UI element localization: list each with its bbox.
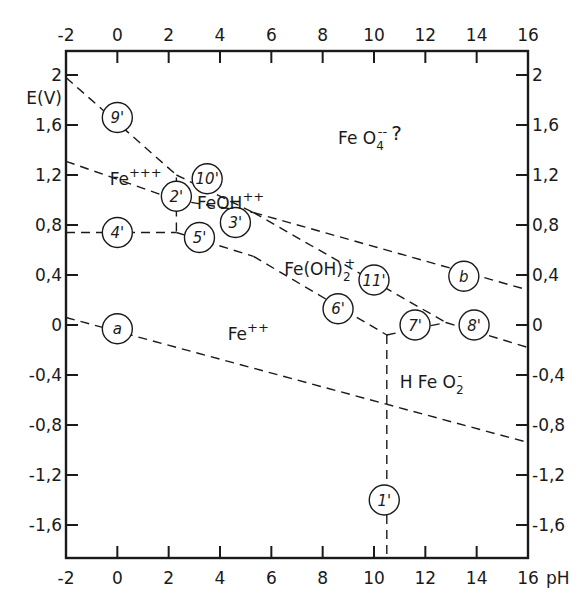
y-tick-label-right: 0,8 (532, 215, 559, 235)
x-tick-label-bottom: 0 (112, 568, 123, 588)
x-tick-label-top: 10 (363, 25, 385, 45)
line-marker: a (102, 314, 132, 344)
x-tick-label-top: -2 (58, 25, 75, 45)
line-marker: 11' (359, 265, 389, 295)
y-tick-label-left: -1,6 (29, 515, 62, 535)
line-marker: 6' (323, 294, 353, 324)
marker-label: 9' (110, 109, 124, 127)
marker-label: 3' (229, 214, 243, 232)
marker-label: 1' (377, 492, 391, 510)
x-axis-label: pH (546, 568, 570, 588)
x-tick-label-top: 2 (163, 25, 174, 45)
marker-label: 2' (170, 188, 184, 206)
x-tick-label-top: 12 (415, 25, 437, 45)
x-tick-label-bottom: -2 (58, 568, 75, 588)
y-tick-label-right: 1,2 (532, 165, 559, 185)
x-tick-label-top: 16 (517, 25, 539, 45)
y-tick-label-left: 0,4 (35, 265, 62, 285)
line-marker: 7' (400, 310, 430, 340)
x-tick-label-bottom: 14 (466, 568, 488, 588)
marker-label: 10' (196, 170, 219, 188)
x-tick-label-top: 14 (466, 25, 488, 45)
x-tick-label-bottom: 8 (317, 568, 328, 588)
x-tick-label-top: 4 (215, 25, 226, 45)
pourbaix-diagram: -2-200224466881010121214141616pH221,61,6… (0, 0, 585, 599)
y-tick-label-left: -1,2 (29, 465, 62, 485)
line-marker: 4' (102, 218, 132, 248)
marker-label: 11' (362, 272, 385, 290)
region-label-hfeo2: H Fe O2- (400, 368, 464, 397)
marker-label: 5' (193, 229, 207, 247)
marker-label: 7' (408, 317, 422, 335)
line-marker: 1' (369, 485, 399, 515)
region-label-feoh2: Fe(OH)2+ (284, 255, 355, 284)
y-tick-label-left: 1,6 (35, 115, 62, 135)
marker-label: 8' (467, 317, 481, 335)
y-tick-label-right: 0,4 (532, 265, 559, 285)
y-tick-label-right: -1,2 (532, 465, 565, 485)
line-marker: 2' (161, 181, 191, 211)
region-label-feoh: FeOH++ (197, 189, 264, 213)
y-tick-label-right: -0,4 (532, 365, 565, 385)
y-tick-label-right: 2 (532, 65, 543, 85)
y-tick-label-right: -0,8 (532, 415, 565, 435)
x-tick-label-bottom: 2 (163, 568, 174, 588)
marker-label: b (459, 268, 469, 286)
y-tick-label-left: -0,4 (29, 365, 62, 385)
y-tick-label-left: 2 (51, 65, 62, 85)
region-label-fe2: Fe++ (228, 320, 269, 344)
y-tick-label-right: 1,6 (532, 115, 559, 135)
marker-label: 6' (331, 300, 345, 318)
marker-label: a (113, 320, 122, 338)
marker-label: 4' (110, 224, 124, 242)
plot-frame (66, 51, 528, 558)
x-tick-label-top: 8 (317, 25, 328, 45)
region-label-fe3: Fe+++ (110, 165, 162, 189)
line-marker: b (449, 261, 479, 291)
y-tick-label-left: 0,8 (35, 215, 62, 235)
x-tick-label-top: 0 (112, 25, 123, 45)
y-tick-label-left: -0,8 (29, 415, 62, 435)
y-axis-label: E(V) (26, 88, 62, 108)
line-marker: 8' (459, 310, 489, 340)
region-label-feo4: Fe O4--? (338, 121, 402, 153)
line-marker: 10' (192, 164, 222, 194)
x-tick-label-top: 6 (266, 25, 277, 45)
line-marker: 5' (184, 223, 214, 253)
x-tick-label-bottom: 4 (215, 568, 226, 588)
y-tick-label-left: 1,2 (35, 165, 62, 185)
x-tick-label-bottom: 10 (363, 568, 385, 588)
line-marker: 9' (102, 103, 132, 133)
x-tick-label-bottom: 6 (266, 568, 277, 588)
x-tick-label-bottom: 16 (517, 568, 539, 588)
y-tick-label-left: 0 (51, 315, 62, 335)
y-tick-label-right: 0 (532, 315, 543, 335)
x-tick-label-bottom: 12 (415, 568, 437, 588)
y-tick-label-right: -1,6 (532, 515, 565, 535)
